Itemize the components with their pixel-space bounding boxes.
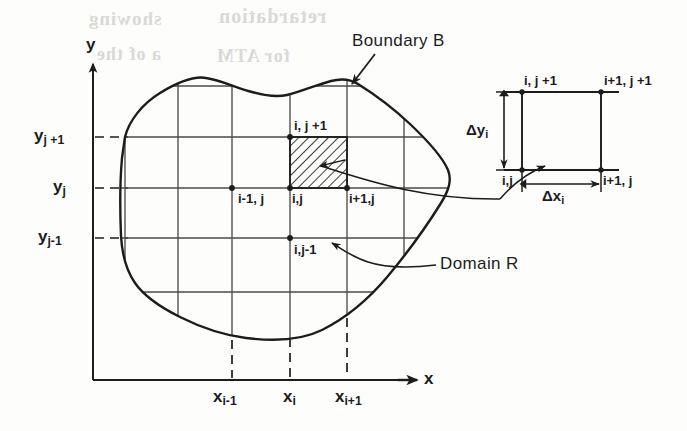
y-tick-label-j-minus-1: yj-1 — [38, 228, 62, 248]
y-tick-label-j: yj — [53, 178, 66, 198]
inset-delta-x-sub: i — [561, 194, 564, 206]
y-tick-sub-j: j — [62, 184, 65, 198]
x-tick-sub-i: i — [292, 394, 295, 408]
y-tick-label-j-plus-1: yj +1 — [34, 127, 64, 147]
domain-boundary-curve — [120, 78, 449, 340]
inset-delta-y-dimension — [496, 92, 514, 170]
finite-difference-mesh — [100, 60, 460, 400]
inset-delta-y-label: Δyi — [466, 122, 488, 140]
inset-corner-label-i-j-plus-1: i, j +1 — [524, 74, 557, 87]
diagram-vector-layer — [0, 0, 687, 431]
boundary-callout-leader — [352, 54, 375, 84]
node-label-i-j-plus-1: i, j +1 — [294, 119, 327, 132]
x-tick-sub-i-minus-1: i-1 — [222, 394, 236, 408]
node-label-i-minus-1-j: i-1, j — [238, 192, 264, 205]
node-label-i-plus-1-j: i+1,j — [349, 192, 375, 205]
node-label-i-j-minus-1: i,j-1 — [294, 243, 316, 256]
inset-corner-label-i-plus-1-j-plus-1: i+1, j +1 — [604, 74, 652, 87]
inset-corner-label-i-plus-1-j: i+1, j — [603, 174, 632, 187]
x-tick-sub-i-plus-1: i+1 — [344, 394, 361, 408]
node-label-i-j: i,j — [292, 192, 303, 205]
inset-cell-node-dots — [519, 89, 603, 172]
x-tick-label-i: xi — [283, 388, 296, 408]
y-axis-label: y — [86, 36, 95, 53]
hatched-control-cell — [290, 137, 347, 188]
inset-delta-y-base: Δy — [466, 121, 485, 138]
axis-lines — [93, 64, 417, 380]
figure-canvas: showing retardation a of the for ATM — [0, 0, 687, 431]
inset-delta-x-base: Δx — [542, 187, 561, 204]
inset-delta-y-sub: i — [485, 128, 488, 140]
inset-corner-label-i-j: i,j — [502, 174, 513, 187]
x-tick-label-i-plus-1: xi+1 — [335, 388, 362, 408]
inset-cell — [504, 92, 619, 170]
y-tick-sub-j-minus-1: j-1 — [47, 234, 61, 248]
x-tick-label-i-minus-1: xi-1 — [213, 388, 237, 408]
y-tick-sub-j-plus-1: j +1 — [43, 133, 64, 147]
boundary-callout-label: Boundary B — [352, 32, 445, 49]
inset-delta-x-label: Δxi — [542, 188, 564, 206]
x-axis-label: x — [424, 370, 433, 387]
domain-callout-label: Domain R — [440, 255, 519, 272]
